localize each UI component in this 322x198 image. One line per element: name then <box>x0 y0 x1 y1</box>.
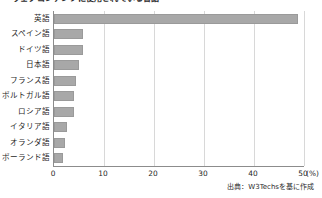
source-note: 出典：W3Techsを基に作成 <box>227 183 314 192</box>
bar <box>54 107 74 117</box>
bar-row: スペイン語 <box>54 27 304 43</box>
bar <box>54 138 65 148</box>
bar <box>54 122 67 132</box>
bar-row: オランダ語 <box>54 135 304 151</box>
category-label: ポーランド語 <box>2 153 50 163</box>
category-label: ドイツ語 <box>18 45 50 55</box>
bar-row: 日本語 <box>54 58 304 74</box>
category-label: フランス語 <box>10 76 50 86</box>
category-label: イタリア語 <box>10 122 50 132</box>
x-axis-unit-label: (%) <box>306 169 319 178</box>
bar-row: フランス語 <box>54 73 304 89</box>
x-tick-label: 40 <box>248 169 257 178</box>
bar <box>54 45 83 55</box>
bar <box>54 29 83 39</box>
category-label: スペイン語 <box>11 29 50 39</box>
bar <box>54 76 76 86</box>
x-tick-label: 10 <box>98 169 107 178</box>
bar-row: ポーランド語 <box>54 151 304 167</box>
bar <box>54 60 79 70</box>
x-tick-label: 0 <box>51 169 56 178</box>
bar-row: ロシア語 <box>54 104 304 120</box>
plot-area: 英語スペイン語ドイツ語日本語フランス語ポルトガル語ロシア語イタリア語オランダ語ポ… <box>53 11 304 167</box>
chart-title: ウェブコンテンツに使用されている言語 <box>12 0 160 3</box>
bar <box>54 14 298 24</box>
bar <box>54 91 74 101</box>
x-tick-label: 20 <box>148 169 157 178</box>
bar-chart-figure: ウェブコンテンツに使用されている言語 英語スペイン語ドイツ語日本語フランス語ポル… <box>0 0 322 198</box>
x-tick-label: 30 <box>198 169 207 178</box>
category-label: ロシア語 <box>18 107 50 117</box>
category-label: 英語 <box>34 14 50 24</box>
category-label: ポルトガル語 <box>2 91 50 101</box>
gridline <box>304 11 305 166</box>
category-label: オランダ語 <box>10 138 50 148</box>
bar-series: 英語スペイン語ドイツ語日本語フランス語ポルトガル語ロシア語イタリア語オランダ語ポ… <box>54 11 304 166</box>
bar-row: イタリア語 <box>54 120 304 136</box>
bar-row: ドイツ語 <box>54 42 304 58</box>
bar <box>54 153 63 163</box>
category-label: 日本語 <box>26 60 50 70</box>
bar-row: ポルトガル語 <box>54 89 304 105</box>
bar-row: 英語 <box>54 11 304 27</box>
